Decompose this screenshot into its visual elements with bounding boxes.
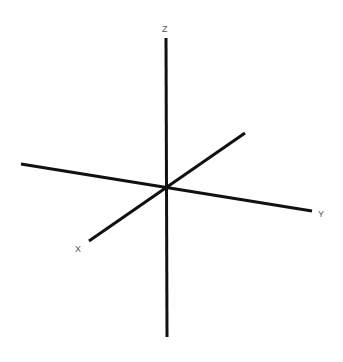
- axes-diagram: Z Y X: [0, 0, 343, 362]
- x-axis-label: X: [75, 244, 81, 254]
- z-axis-label: Z: [162, 24, 168, 34]
- y-axis-label: Y: [318, 209, 324, 219]
